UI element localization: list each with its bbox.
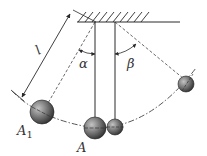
beta-label: β bbox=[126, 56, 135, 71]
pendulum-diagram: l α β A1 A bbox=[0, 0, 207, 156]
alpha-label: α bbox=[79, 56, 88, 71]
A1-label: A1 bbox=[16, 123, 33, 140]
length-label: l bbox=[32, 42, 43, 57]
ceiling-hatching bbox=[78, 12, 149, 22]
ball-A bbox=[84, 117, 106, 139]
ball-A1 bbox=[30, 100, 54, 124]
angle-beta-arc bbox=[115, 44, 136, 54]
displaced-string-right bbox=[115, 22, 184, 79]
A-label: A bbox=[76, 140, 86, 155]
displaced-string-left bbox=[48, 22, 95, 103]
ball-small-deflected bbox=[178, 74, 194, 92]
angle-alpha-arc bbox=[79, 50, 95, 54]
ball-small-rest bbox=[107, 119, 124, 135]
